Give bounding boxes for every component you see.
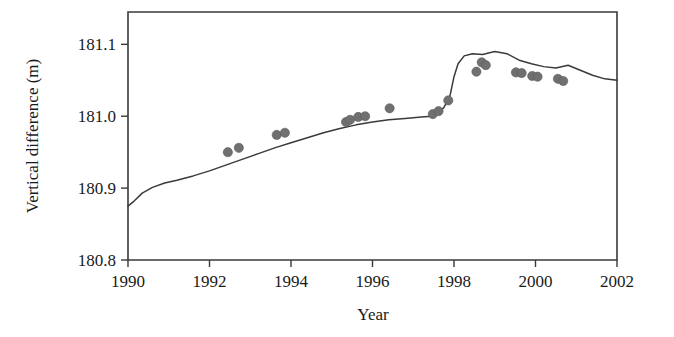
y-tick-label: 181.1 [78, 35, 116, 54]
data-point-marker [385, 104, 394, 113]
y-axis-title: Vertical difference (m) [23, 59, 42, 214]
x-tick-label: 2002 [600, 272, 634, 291]
data-point-marker [444, 96, 453, 105]
y-axis-tick-labels: 180.8180.9181.0181.1 [78, 35, 116, 270]
x-tick-label: 1990 [111, 272, 145, 291]
series-line-path [128, 52, 617, 207]
y-tick-label: 180.8 [78, 251, 116, 270]
data-point-marker [481, 61, 490, 70]
data-point-marker [345, 115, 354, 124]
x-tick-label: 1998 [437, 272, 471, 291]
x-tick-label: 1992 [193, 272, 227, 291]
y-axis-ticks [121, 44, 128, 260]
x-tick-label: 1996 [356, 272, 390, 291]
x-axis-ticks [128, 260, 617, 267]
data-point-marker [361, 112, 370, 121]
data-point-marker [434, 107, 443, 116]
data-point-marker [517, 69, 526, 78]
data-point-marker [533, 72, 542, 81]
vertical-difference-chart: 1990199219941996199820002002 180.8180.91… [0, 0, 674, 337]
x-axis-title: Year [357, 305, 389, 324]
data-point-marker [472, 67, 481, 76]
x-axis-tick-labels: 1990199219941996199820002002 [111, 272, 634, 291]
y-tick-label: 181.0 [78, 107, 116, 126]
data-point-marker [559, 76, 568, 85]
data-point-marker [272, 130, 281, 139]
x-tick-label: 1994 [274, 272, 309, 291]
data-point-marker [280, 128, 289, 137]
observation-marker-series [223, 58, 568, 157]
data-point-marker [234, 143, 243, 152]
chart-figure: 1990199219941996199820002002 180.8180.91… [0, 0, 674, 337]
data-point-marker [223, 148, 232, 157]
y-tick-label: 180.9 [78, 179, 116, 198]
plot-frame [128, 12, 617, 260]
model-line-series [128, 52, 617, 207]
x-tick-label: 2000 [519, 272, 553, 291]
